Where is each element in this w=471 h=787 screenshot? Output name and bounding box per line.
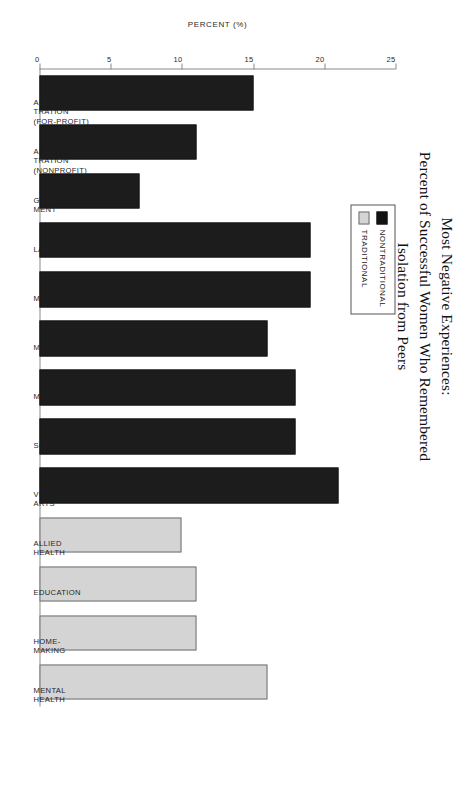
value-axis-tick-label: 20 xyxy=(315,55,324,64)
legend-label-nontraditional: NONTRADITIONAL xyxy=(377,229,386,307)
category-axis-label-line: ADMINIS- xyxy=(33,146,87,155)
legend-label-traditional: TRADITIONAL xyxy=(359,229,368,287)
chart-canvas: Most Negative Experiences: Percent of Su… xyxy=(0,0,471,787)
category-axis-label: VISUALARTS xyxy=(33,489,62,508)
category-axis-label-line: MENTAL xyxy=(33,685,65,694)
value-axis-tick: 20 xyxy=(324,63,325,69)
chart-title: Most Negative Experiences: Percent of Su… xyxy=(391,96,457,516)
category-axis-label: ADMINIS-TRATION(FOR-PROFIT) xyxy=(33,97,89,125)
value-axis-line: 0510152025 PERCENT (%) xyxy=(39,68,395,69)
category-axis-label-line: VISUAL xyxy=(33,489,62,498)
category-axis-label-line: (FOR-PROFIT) xyxy=(33,116,89,125)
plot-area: 0510152025 PERCENT (%) ADMINIS-TRATION(F… xyxy=(39,68,395,706)
category-axis-label: HOME-MAKING xyxy=(33,636,65,655)
category-axis-label-line: HOME- xyxy=(33,636,65,645)
value-axis-tick-label: 25 xyxy=(387,55,396,64)
category-axis-label-line: MUSIC xyxy=(33,391,59,400)
category-axis-label-line: MENT xyxy=(33,204,71,213)
category-axis-label-line: MEDICINE xyxy=(33,342,73,351)
category-axis-label-line: HEALTH xyxy=(33,695,65,704)
category-axis-label-line: ADMINIS- xyxy=(33,97,89,106)
category-axis-label-line: TRATION xyxy=(33,155,87,164)
category-axis-label: SCIENCE xyxy=(33,440,69,449)
bar[interactable] xyxy=(39,222,310,257)
legend-item-traditional[interactable]: TRADITIONAL xyxy=(358,211,369,307)
legend-swatch-nontraditional xyxy=(376,211,387,224)
category-axis-label: MEDIA xyxy=(33,293,59,302)
legend-swatch-traditional xyxy=(358,211,369,224)
category-axis-label: MENTALHEALTH xyxy=(33,685,65,704)
category-axis-label-line: LAW xyxy=(33,244,50,253)
bar[interactable] xyxy=(39,664,267,699)
bar[interactable] xyxy=(39,418,295,453)
category-axis-label: MUSIC xyxy=(33,391,59,400)
category-axis-label: GOVERN-MENT xyxy=(33,195,71,214)
category-axis-label-line: GOVERN- xyxy=(33,195,71,204)
chart-title-line-1: Most Negative Experiences: xyxy=(435,96,457,516)
category-axis-label-line: TRATION xyxy=(33,106,89,115)
value-axis-tick-label: 0 xyxy=(35,55,39,64)
category-axis-label-line: ARTS xyxy=(33,499,62,508)
category-axis-label-line: SCIENCE xyxy=(33,440,69,449)
category-axis-label: LAW xyxy=(33,244,50,253)
value-axis-tick: 15 xyxy=(253,63,254,69)
category-axis-label-line: ALLIED xyxy=(33,538,65,547)
legend-item-nontraditional[interactable]: NONTRADITIONAL xyxy=(376,211,387,307)
value-axis-title: PERCENT (%) xyxy=(187,20,246,29)
category-axis-label-line: MAKING xyxy=(33,646,65,655)
category-axis-label: ADMINIS-TRATION(NONPROFIT) xyxy=(33,146,87,174)
bar[interactable] xyxy=(39,369,295,404)
category-axis-label-line: EDUCATION xyxy=(33,587,80,596)
bar[interactable] xyxy=(39,271,310,306)
value-axis-tick-label: 10 xyxy=(173,55,182,64)
category-axis-label-line: HEALTH xyxy=(33,548,65,557)
bar[interactable] xyxy=(39,467,338,502)
value-axis-tick: 25 xyxy=(395,63,396,69)
value-axis-tick-label: 15 xyxy=(244,55,253,64)
value-axis-tick: 0 xyxy=(39,63,40,69)
category-axis-label: ALLIEDHEALTH xyxy=(33,538,65,557)
value-axis-tick-label: 5 xyxy=(106,55,110,64)
category-axis-label-line: (NONPROFIT) xyxy=(33,165,87,174)
category-axis-label: EDUCATION xyxy=(33,587,80,596)
value-axis-tick: 10 xyxy=(181,63,182,69)
category-axis-label-line: MEDIA xyxy=(33,293,59,302)
value-axis-tick: 5 xyxy=(110,63,111,69)
category-axis-label: MEDICINE xyxy=(33,342,73,351)
chart-legend: NONTRADITIONAL TRADITIONAL xyxy=(350,204,395,314)
chart-title-line-2: Percent of Successful Women Who Remember… xyxy=(413,96,435,516)
